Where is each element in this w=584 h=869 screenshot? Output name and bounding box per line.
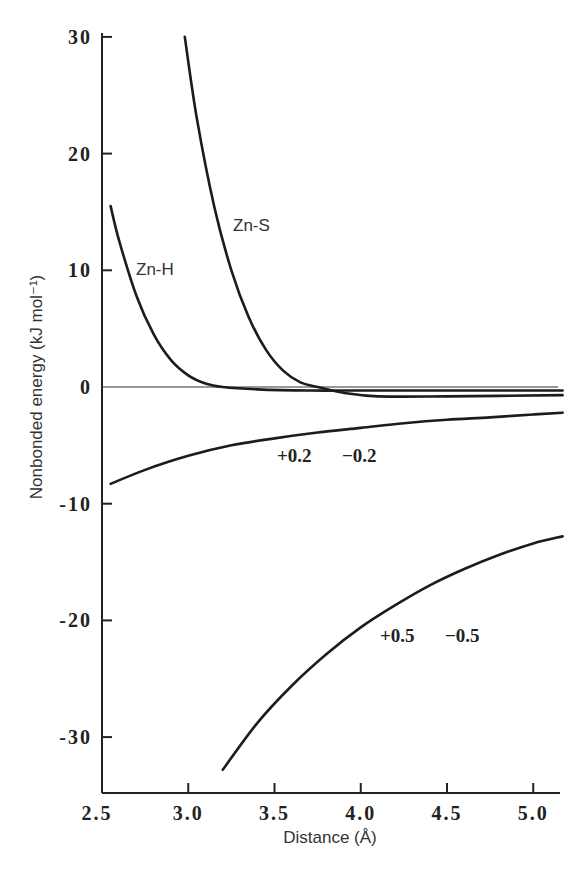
curves — [111, 37, 563, 770]
y-tick-label: -10 — [59, 493, 92, 515]
x-tick-label: 3.5 — [259, 802, 290, 824]
energy-chart: 3020100-10-20-30 2.53.03.54.04.55.0 Dist… — [0, 0, 584, 869]
label-zn-h: Zn-H — [136, 260, 174, 279]
curve-zn-h — [111, 206, 563, 390]
curve--0-2-0-2 — [111, 413, 563, 484]
label-charge-02-neg: −0.2 — [342, 445, 377, 466]
x-tick-label: 4.0 — [345, 802, 376, 824]
y-tick-label: 30 — [68, 26, 92, 48]
x-tick-label: 3.0 — [173, 802, 204, 824]
curve--0-5-0-5 — [223, 536, 563, 769]
y-tick-label: 10 — [68, 259, 92, 281]
label-charge-02-pos: +0.2 — [277, 445, 312, 466]
x-tick-label: 5.0 — [518, 802, 549, 824]
y-tick-label: 20 — [68, 143, 92, 165]
x-tick-label: 4.5 — [432, 802, 463, 824]
x-ticks: 2.53.03.54.04.55.0 — [82, 783, 549, 824]
y-tick-label: -30 — [59, 726, 92, 748]
label-zn-s: Zn-S — [233, 216, 270, 235]
x-tick-label: 2.5 — [82, 802, 113, 824]
y-tick-label: -20 — [59, 609, 92, 631]
label-charge-05-neg: −0.5 — [445, 625, 480, 646]
y-axis-title: Nonbonded energy (kJ mol⁻¹) — [27, 275, 46, 499]
label-charge-05-pos: +0.5 — [380, 625, 415, 646]
y-tick-label: 0 — [80, 376, 92, 398]
x-axis-title: Distance (Å) — [283, 828, 377, 847]
